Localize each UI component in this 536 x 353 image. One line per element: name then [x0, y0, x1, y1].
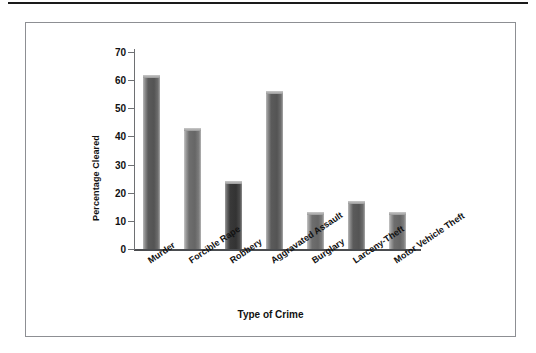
bar-top-highlight — [225, 181, 242, 184]
bar — [184, 128, 201, 249]
bar — [143, 75, 160, 249]
figure-page: Percentage Cleared 010203040506070 Murde… — [0, 0, 536, 353]
bar-fill — [184, 128, 201, 249]
bar-top-highlight — [143, 75, 160, 78]
bar-fill — [348, 201, 365, 249]
bar-top-highlight — [389, 212, 406, 215]
y-tick-label: 70 — [88, 47, 126, 58]
bar-top-highlight — [266, 91, 283, 94]
top-horizontal-rule — [8, 2, 528, 4]
bar-fill — [143, 75, 160, 249]
bars-layer — [134, 23, 421, 336]
chart-figure-frame: Percentage Cleared 010203040506070 Murde… — [25, 22, 516, 337]
plot-area: Percentage Cleared 010203040506070 Murde… — [26, 23, 515, 336]
y-tick-label: 60 — [88, 75, 126, 86]
bar-top-highlight — [348, 201, 365, 204]
bar-top-highlight — [184, 128, 201, 131]
y-tick-label: 40 — [88, 131, 126, 142]
bar-fill — [266, 91, 283, 249]
bar — [266, 91, 283, 249]
y-tick-label: 0 — [88, 244, 126, 255]
y-tick-label: 20 — [88, 187, 126, 198]
bar-top-highlight — [307, 212, 324, 215]
x-axis-title: Type of Crime — [26, 309, 515, 320]
y-axis-title-text: Percentage Cleared — [91, 135, 101, 221]
y-tick-label: 10 — [88, 215, 126, 226]
bar — [348, 201, 365, 249]
y-tick-label: 50 — [88, 103, 126, 114]
y-tick-label: 30 — [88, 159, 126, 170]
